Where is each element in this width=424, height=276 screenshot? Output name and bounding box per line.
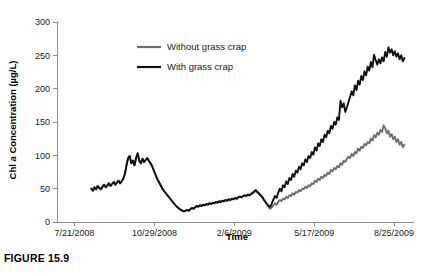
x-tick-label: 5/17/2009 <box>294 228 334 238</box>
y-tick-label: 150 <box>35 117 50 127</box>
y-axis-ticks: 050100150200250300 <box>35 17 57 227</box>
chart-plot-area: 050100150200250300 7/21/200810/29/20082/… <box>0 0 424 245</box>
y-tick-label: 50 <box>40 184 50 194</box>
x-tick-label: 7/21/2008 <box>55 228 95 238</box>
figure-caption: FIGURE 15.9 <box>4 252 69 264</box>
data-series-group <box>91 47 404 211</box>
y-tick-label: 300 <box>35 17 50 27</box>
y-tick-label: 0 <box>45 217 50 227</box>
series-line-without-grass-crap <box>91 125 404 211</box>
y-axis-title: Chl a Concentration (µg/L) <box>7 61 18 180</box>
x-tick-label: 10/29/2008 <box>132 228 177 238</box>
y-tick-label: 200 <box>35 84 50 94</box>
legend-label: With grass crap <box>167 61 233 72</box>
figure-container: 050100150200250300 7/21/200810/29/20082/… <box>0 0 424 276</box>
series-line-with-grass-crap <box>91 47 404 211</box>
legend-label: Without grass crap <box>167 41 246 52</box>
x-tick-label: 8/25/2009 <box>374 228 414 238</box>
x-axis-title: Time <box>226 231 248 242</box>
y-tick-label: 250 <box>35 51 50 61</box>
chart-legend: Without grass crapWith grass crap <box>137 41 246 72</box>
y-tick-label: 100 <box>35 151 50 161</box>
line-chart: 050100150200250300 7/21/200810/29/20082/… <box>0 0 424 245</box>
